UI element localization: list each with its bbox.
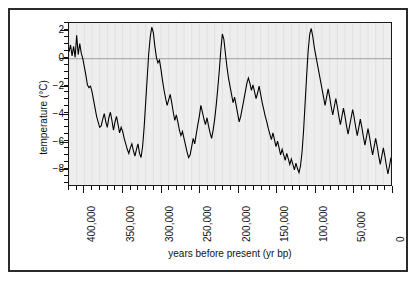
x-tick-minor: [330, 186, 331, 190]
x-tick-major: [122, 186, 123, 193]
x-tick-label: 400,000: [87, 206, 97, 242]
x-tick-minor: [369, 186, 370, 190]
x-tick-minor: [222, 186, 223, 190]
x-tick-major: [199, 186, 200, 193]
x-tick-minor: [346, 186, 347, 190]
x-tick-minor: [338, 186, 339, 190]
y-tick-major: [60, 30, 68, 31]
x-tick-minor: [307, 186, 308, 190]
y-tick-major: [60, 114, 68, 115]
x-tick-minor: [245, 186, 246, 190]
x-tick-minor: [230, 186, 231, 190]
x-tick-minor: [384, 186, 385, 190]
x-tick-minor: [99, 186, 100, 190]
x-tick-minor: [299, 186, 300, 190]
x-tick-minor: [261, 186, 262, 190]
x-tick-minor: [207, 186, 208, 190]
x-tick-label: 150,000: [280, 206, 290, 242]
x-tick-major: [238, 186, 239, 193]
x-tick-minor: [361, 186, 362, 190]
x-tick-minor: [168, 186, 169, 190]
x-tick-minor: [68, 186, 69, 190]
x-tick-label: 300,000: [165, 206, 175, 242]
x-tick-minor: [130, 186, 131, 190]
x-tick-minor: [284, 186, 285, 190]
y-tick-major: [60, 58, 68, 59]
x-tick-minor: [253, 186, 254, 190]
y-tick-major: [60, 86, 68, 87]
x-tick-major: [83, 186, 84, 193]
x-tick-label: 350,000: [126, 206, 136, 242]
x-tick-label: 0: [396, 236, 406, 242]
x-tick-minor: [107, 186, 108, 190]
y-tick-major: [60, 169, 68, 170]
plot-area: [68, 22, 392, 186]
x-tick-minor: [137, 186, 138, 190]
x-tick-major: [161, 186, 162, 193]
x-tick-minor: [76, 186, 77, 190]
chart-figure: temperature (°C) 20−2−4−6−8 400,000350,0…: [0, 0, 418, 285]
x-tick-label: 100,000: [319, 206, 329, 242]
x-tick-minor: [176, 186, 177, 190]
y-axis-title-container: temperature (°C): [24, 40, 38, 170]
x-tick-major: [276, 186, 277, 193]
x-tick-minor: [215, 186, 216, 190]
x-tick-minor: [377, 186, 378, 190]
y-tick-major: [60, 142, 68, 143]
x-tick-minor: [153, 186, 154, 190]
x-tick-minor: [91, 186, 92, 190]
x-tick-minor: [269, 186, 270, 190]
x-tick-minor: [323, 186, 324, 190]
x-tick-minor: [145, 186, 146, 190]
temperature-line-plot: [69, 23, 391, 185]
x-tick-minor: [114, 186, 115, 190]
x-tick-label: 50,000: [357, 211, 367, 242]
x-axis-tick-labels: 400,000350,000300,000250,000200,000150,0…: [68, 196, 408, 246]
x-tick-label: 250,000: [203, 206, 213, 242]
y-axis-tick-marks: [60, 22, 68, 186]
x-tick-minor: [292, 186, 293, 190]
x-tick-major: [353, 186, 354, 193]
x-tick-minor: [184, 186, 185, 190]
x-tick-label: 200,000: [242, 206, 252, 242]
x-tick-minor: [191, 186, 192, 190]
x-axis-tick-marks: [68, 186, 392, 194]
x-tick-major: [315, 186, 316, 193]
x-tick-major: [392, 186, 393, 193]
x-axis-title: years before present (yr bp): [68, 248, 392, 259]
